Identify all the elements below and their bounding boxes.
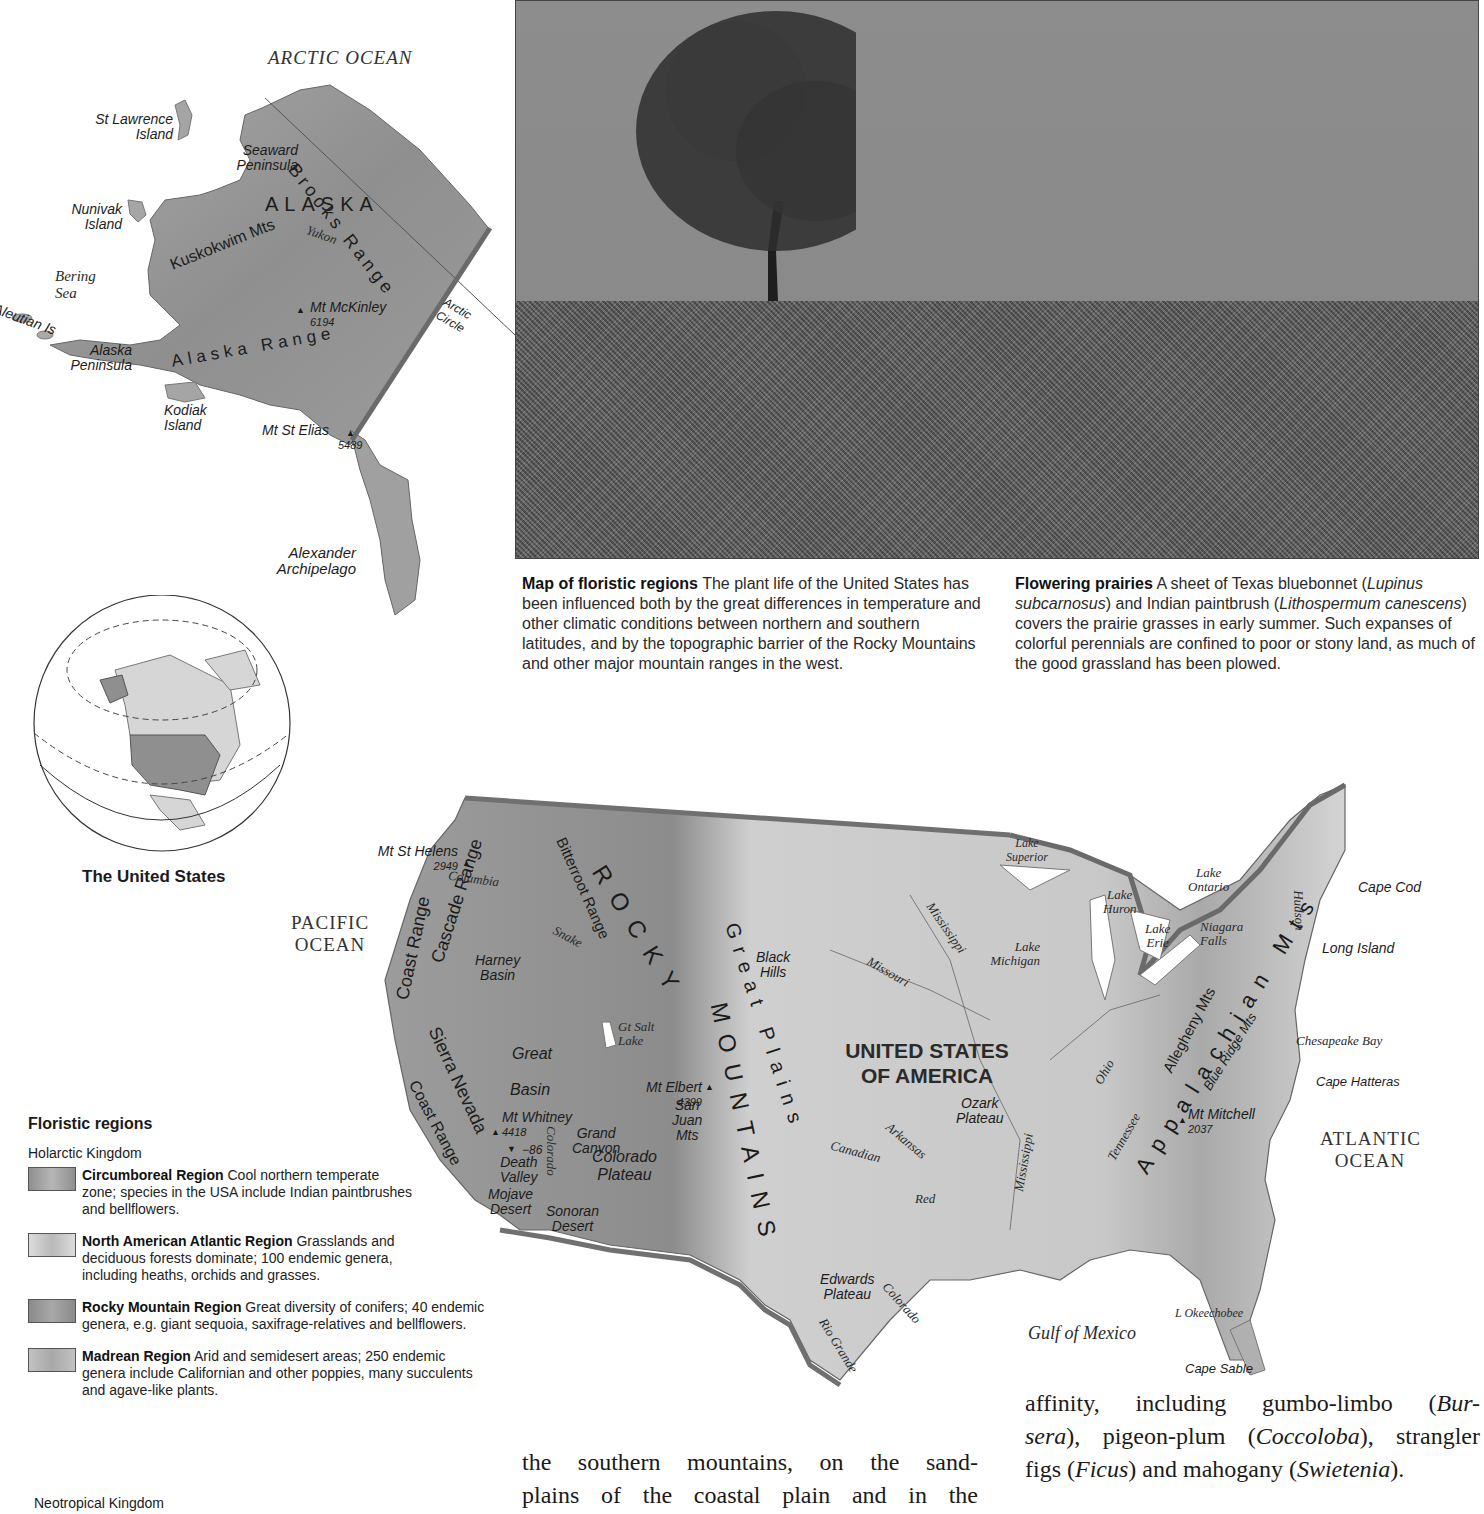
bluebonnet-field xyxy=(516,301,1478,558)
cape-cod-label: Cape Cod xyxy=(1358,880,1421,895)
great-basin-label-1: Great xyxy=(512,1046,552,1061)
alaska-map: ARCTIC OCEAN St LawrenceIsland SeawardPe… xyxy=(0,0,515,620)
legend-swatch xyxy=(28,1348,76,1372)
sonoran-desert-label: SonoranDesert xyxy=(546,1204,599,1234)
lake-okeechobee-label: L Okeechobee xyxy=(1175,1306,1243,1320)
legend-item-madrean: Madrean Region Arid and semidesert areas… xyxy=(28,1348,498,1399)
mt-mitchell-label: Mt Mitchell2037 xyxy=(1188,1107,1255,1137)
ozark-plateau-label: OzarkPlateau xyxy=(956,1096,1003,1126)
arctic-ocean-label: ARCTIC OCEAN xyxy=(268,47,412,69)
peak-triangle-icon: ▲ xyxy=(705,1082,714,1092)
alaska-landmass xyxy=(0,0,515,620)
globe-caption: The United States xyxy=(82,867,226,887)
legend-swatch xyxy=(28,1233,76,1257)
alexander-archipelago-label: AlexanderArchipelago xyxy=(270,545,356,577)
chesapeake-bay-label: Chesapeake Bay xyxy=(1296,1034,1382,1048)
globe-icon xyxy=(30,595,300,855)
legend-swatch xyxy=(28,1167,76,1191)
country-label: UNITED STATESOF AMERICA xyxy=(822,1038,1032,1088)
body-text-right: affinity, including gumbo-limbo (Bur- se… xyxy=(1025,1387,1480,1486)
legend-item-rocky-mountain: Rocky Mountain Region Great diversity of… xyxy=(28,1299,498,1333)
colorado-river-west-label: Colorado xyxy=(544,1126,558,1176)
legend-kingdom-neotropical: Neotropical Kingdom xyxy=(34,1495,164,1511)
photo-caption-title: Flowering prairies xyxy=(1015,575,1153,592)
harney-basin-label: HarneyBasin xyxy=(475,953,520,983)
body-text-left: the southern mountains, on the sand- pla… xyxy=(522,1446,978,1512)
kodiak-island-label: KodiakIsland xyxy=(164,403,207,433)
low-point-triangle-icon: ▼ xyxy=(507,1144,516,1154)
black-hills-label: BlackHills xyxy=(756,950,790,980)
us-floristic-map: PACIFICOCEAN ATLANTICOCEAN Gulf of Mexic… xyxy=(370,760,1484,1460)
mt-elbert-label: Mt Elbert4399 xyxy=(636,1080,702,1110)
tree-icon xyxy=(556,1,856,331)
peak-triangle-icon: ▲ xyxy=(462,858,471,868)
legend-kingdom-holarctic: Holarctic Kingdom xyxy=(28,1145,498,1161)
colorado-plateau-label: ColoradoPlateau xyxy=(592,1148,657,1184)
edwards-plateau-label: EdwardsPlateau xyxy=(820,1272,874,1302)
peak-triangle-icon: ▲ xyxy=(1178,1115,1187,1125)
prairie-photo xyxy=(515,0,1479,559)
lake-huron-label: LakeHuron xyxy=(1103,888,1136,916)
mt-st-helens-label: Mt St Helens2949 xyxy=(362,844,458,874)
locator-globe: The United States xyxy=(30,595,300,895)
map-caption: Map of floristic regions The plant life … xyxy=(522,574,982,674)
mt-mckinley-label: Mt McKinley6194 xyxy=(310,300,386,330)
death-valley-elevation: −86 xyxy=(522,1143,542,1158)
legend-item-circumboreal: Circumboreal Region Cool northern temper… xyxy=(28,1167,498,1218)
lake-erie-label: LakeErie xyxy=(1145,922,1170,950)
cape-sable-label: Cape Sable xyxy=(1185,1361,1253,1376)
legend-item-north-american-atlantic: North American Atlantic Region Grassland… xyxy=(28,1233,498,1284)
lake-superior-label: LakeSuperior xyxy=(1006,836,1048,864)
long-island-label: Long Island xyxy=(1322,941,1394,956)
red-river-label: Red xyxy=(915,1192,935,1206)
atlantic-ocean-label: ATLANTICOCEAN xyxy=(1320,1128,1420,1172)
bering-sea-label: BeringSea xyxy=(55,268,96,302)
mt-whitney-label: Mt Whitney4418 xyxy=(502,1110,572,1140)
alaska-peninsula-label: AlaskaPeninsula xyxy=(66,343,132,373)
hudson-river-label: Hudson xyxy=(1291,890,1306,931)
death-valley-label: DeathValley xyxy=(500,1155,538,1185)
peak-triangle-icon: ▲ xyxy=(346,428,355,438)
lake-michigan-label: LakeMichigan xyxy=(990,940,1040,968)
nunivak-island-label: NunivakIsland xyxy=(62,202,122,232)
lake-ontario-label: LakeOntario xyxy=(1188,866,1229,894)
peak-triangle-icon: ▲ xyxy=(296,305,305,315)
pacific-ocean-label: PACIFICOCEAN xyxy=(290,912,370,956)
cape-hatteras-label: Cape Hatteras xyxy=(1316,1074,1400,1089)
legend-swatch xyxy=(28,1299,76,1323)
great-salt-lake-label: Gt SaltLake xyxy=(618,1020,654,1048)
st-lawrence-island-label: St LawrenceIsland xyxy=(85,112,173,142)
niagara-falls-label: NiagaraFalls xyxy=(1200,920,1243,948)
photo-caption: Flowering prairies A sheet of Texas blue… xyxy=(1015,574,1480,674)
legend-title: Floristic regions xyxy=(28,1115,498,1133)
great-basin-label-2: Basin xyxy=(510,1082,550,1097)
map-caption-title: Map of floristic regions xyxy=(522,575,698,592)
gulf-of-mexico-label: Gulf of Mexico xyxy=(1028,1326,1136,1340)
floristic-legend: Floristic regions Holarctic Kingdom Circ… xyxy=(28,1115,498,1429)
